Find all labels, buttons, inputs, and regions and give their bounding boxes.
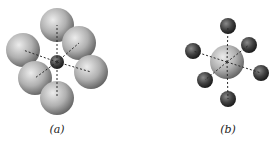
panel-b-small-ligands (185, 18, 269, 107)
octahedral-coordination-figure: (a) (b) (0, 0, 274, 144)
panel-a-large-ligands (6, 8, 108, 115)
panel-b-label: (b) (220, 123, 236, 136)
panel-a-label: (a) (49, 123, 64, 136)
